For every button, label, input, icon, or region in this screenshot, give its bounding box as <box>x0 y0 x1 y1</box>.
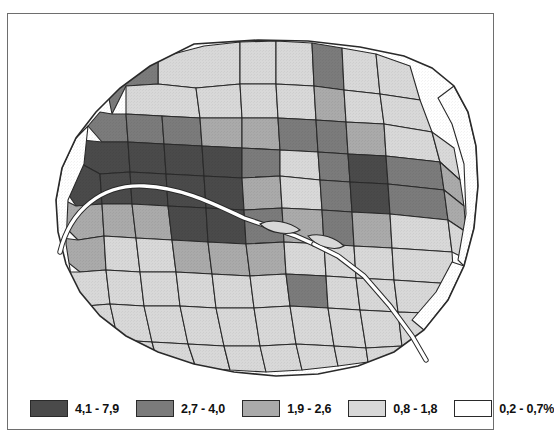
legend-entry-2: 2,7 - 4,0 <box>136 400 225 417</box>
legend-label-class-4: 0,8 - 1,8 <box>393 402 437 416</box>
legend-label-class-5: 0,2 - 0,7% <box>499 402 554 416</box>
legend-label-class-2: 2,7 - 4,0 <box>181 402 225 416</box>
legend-swatch-icon-class-2 <box>136 400 174 417</box>
legend-swatch-icon-class-5 <box>454 400 492 417</box>
legend-entry-3: 1,9 - 2,6 <box>242 400 331 417</box>
map-area <box>8 14 492 386</box>
legend-entry-1: 4,1 - 7,9 <box>30 400 119 417</box>
legend-swatch-icon-class-4 <box>348 400 386 417</box>
figure-frame: 4,1 - 7,9 2,7 - 4,0 1,9 - 2,6 0,8 - 1,8 … <box>7 13 494 430</box>
legend-entry-4: 0,8 - 1,8 <box>348 400 437 417</box>
legend-entry-5: 0,2 - 0,7% <box>454 400 554 417</box>
paris-choropleth-map <box>8 14 492 386</box>
legend-label-class-1: 4,1 - 7,9 <box>75 402 119 416</box>
legend-swatch-icon-class-3 <box>242 400 280 417</box>
map-regions-group <box>8 14 492 386</box>
map-legend: 4,1 - 7,9 2,7 - 4,0 1,9 - 2,6 0,8 - 1,8 … <box>8 388 492 429</box>
legend-swatch-icon-class-1 <box>30 400 68 417</box>
legend-label-class-3: 1,9 - 2,6 <box>287 402 331 416</box>
